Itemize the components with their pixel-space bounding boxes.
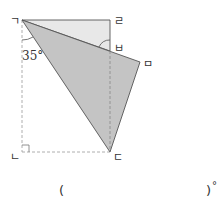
vertex-label-b: ㅂ [114,42,124,55]
angle-arc-g [22,37,33,40]
vertex-label-n: ㄴ [10,151,20,164]
angle-label-35: 35° [22,49,43,63]
vertex-label-g: ㄱ [10,15,20,28]
answer-open-paren: ( [59,183,64,198]
answer-unit: ° [212,180,217,191]
folded-rectangle-diagram: ㄱ ㄹ ㅂ ㅁ ㄴ ㄷ 35° ( ) ° [0,0,224,202]
right-angle-mark [22,145,29,152]
vertex-label-d: ㄷ [113,151,123,164]
vertex-label-m: ㅁ [143,58,153,71]
vertex-label-r: ㄹ [114,15,124,28]
answer-close-paren: ) [206,183,211,198]
